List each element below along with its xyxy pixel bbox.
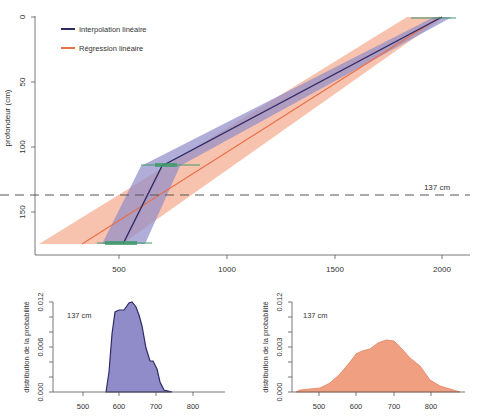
x-tick-label: 500	[313, 402, 326, 411]
y-tick-label: 0.012	[36, 293, 45, 312]
y-tick-label: 0.006	[36, 338, 45, 357]
hline-label: 137 cm	[424, 183, 451, 192]
x-tick-label: 800	[425, 402, 438, 411]
x-tick-label: 500	[77, 402, 90, 411]
y-tick-label: 150	[18, 205, 27, 219]
y-tick-label: 0.012	[275, 293, 284, 312]
x-tick-label: 700	[150, 402, 163, 411]
x-tick-label: 1000	[218, 265, 236, 274]
legend-label-regression: Régression linéaire	[79, 44, 143, 53]
x-tick-label: 500	[112, 265, 126, 274]
y-tick-label: 0	[18, 14, 27, 19]
legend-label-interpolation: Interpolation linéaire	[79, 25, 147, 34]
x-tick-label: 600	[350, 402, 363, 411]
reference-marker-bottom	[105, 241, 137, 245]
panel-depth-label: 137 cm	[67, 311, 92, 320]
reference-marker-mid	[155, 163, 177, 167]
y-axis-label: distribution de la probabilité	[22, 301, 31, 392]
y-tick-label: 50	[18, 77, 27, 86]
main-plot: 137 cm 0 50 100 150 profondeur (cm) 500 …	[0, 14, 470, 274]
y-tick-label: 100	[18, 140, 27, 154]
x-tick-label: 600	[113, 402, 126, 411]
figure: 137 cm 0 50 100 150 profondeur (cm) 500 …	[0, 0, 477, 418]
legend: Interpolation linéaire Régression linéai…	[61, 25, 147, 53]
y-axis-label: profondeur (cm)	[3, 89, 12, 146]
y-tick-label: 0.000	[36, 383, 45, 402]
x-tick-label: 700	[388, 402, 401, 411]
panel-depth-label: 137 cm	[303, 311, 328, 320]
x-tick-label: 800	[187, 402, 200, 411]
x-tick-label: 1500	[326, 265, 344, 274]
x-tick-label: 2000	[433, 265, 451, 274]
y-tick-label: 0.003	[275, 338, 284, 357]
regression-density-area	[296, 340, 460, 392]
interpolation-density-area	[106, 302, 172, 392]
y-tick-label: 0.000	[275, 383, 284, 402]
left-density-plot: 0.000 0.006 0.012 distribution de la pro…	[22, 293, 225, 411]
y-axis-label: distribution de la probabilité	[261, 301, 270, 392]
right-density-plot: 0.000 0.003 0.012 distribution de la pro…	[261, 293, 465, 411]
